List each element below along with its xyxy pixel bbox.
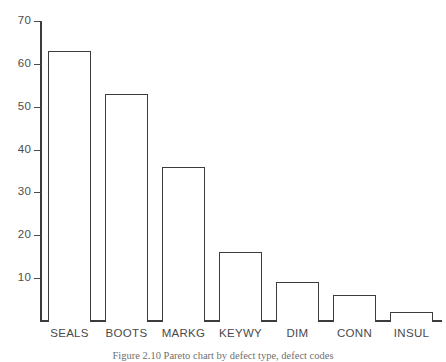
- y-tick-label: 10: [0, 272, 31, 284]
- figure-caption: Figure 2.10 Pareto chart by defect type,…: [0, 350, 446, 362]
- y-tick-label: 40: [0, 144, 31, 156]
- y-tick-mark: [34, 192, 41, 193]
- bar-seals: [48, 51, 91, 322]
- bar-dim: [276, 282, 319, 322]
- y-tick-label-text: 60: [5, 58, 31, 70]
- bar-chart-plot: 10203040506070 SEALSBOOTSMARKGKEYWYDIMCO…: [0, 0, 446, 362]
- figure-container: 10203040506070 SEALSBOOTSMARKGKEYWYDIMCO…: [0, 0, 446, 362]
- y-tick-mark: [34, 21, 41, 22]
- category-label-conn: CONN: [326, 327, 383, 340]
- y-tick-label: 30: [0, 186, 31, 198]
- category-label-dim: DIM: [269, 327, 326, 340]
- y-tick-label: 70: [0, 15, 31, 27]
- bar-conn: [333, 295, 376, 322]
- y-tick-label-text: 40: [5, 144, 31, 156]
- y-tick-label: 50: [0, 101, 31, 113]
- bar-markg: [162, 167, 205, 322]
- bar-keywy: [219, 252, 262, 322]
- y-tick-mark: [34, 235, 41, 236]
- y-tick-label: 20: [0, 229, 31, 241]
- category-label-keywy: KEYWY: [212, 327, 269, 340]
- y-tick-label-text: 30: [5, 186, 31, 198]
- category-label-boots: BOOTS: [98, 327, 155, 340]
- y-tick-label-text: 10: [5, 272, 31, 284]
- y-tick-label-text: 70: [5, 15, 31, 27]
- y-tick-label-text: 20: [5, 229, 31, 241]
- bar-insul: [390, 312, 433, 322]
- y-tick-mark: [34, 150, 41, 151]
- category-label-insul: INSUL: [383, 327, 440, 340]
- y-tick-label: 60: [0, 58, 31, 70]
- y-tick-mark: [34, 64, 41, 65]
- y-tick-label-text: 50: [5, 101, 31, 113]
- category-label-seals: SEALS: [41, 327, 98, 340]
- y-axis-line: [40, 21, 42, 322]
- y-tick-mark: [34, 278, 41, 279]
- bar-boots: [105, 94, 148, 322]
- category-label-markg: MARKG: [155, 327, 212, 340]
- y-tick-mark: [34, 107, 41, 108]
